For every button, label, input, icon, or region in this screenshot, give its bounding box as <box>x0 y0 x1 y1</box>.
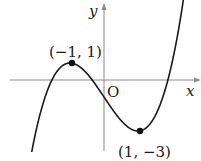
origin-label: O <box>107 83 119 101</box>
cubic-curve <box>31 0 185 156</box>
x-axis-arrow-icon <box>194 78 201 83</box>
y-axis-label: y <box>88 2 98 20</box>
y-axis-arrow-icon <box>102 3 107 10</box>
cubic-graph: y x O (−1, 1) (1, −3) <box>0 0 201 161</box>
local-min-point <box>137 128 143 134</box>
max-point-label: (−1, 1) <box>49 43 102 61</box>
x-axis-label: x <box>186 82 195 100</box>
min-point-label: (1, −3) <box>118 143 171 161</box>
